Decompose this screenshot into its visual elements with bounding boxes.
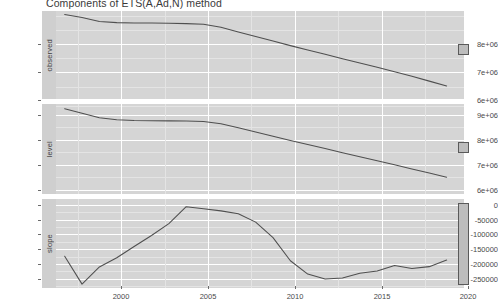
ytickmark	[38, 279, 41, 280]
ytick-level-6e06: 6e+06	[458, 186, 498, 195]
ytick-observed-7e06: 7e+06	[458, 68, 498, 77]
ytickmark	[38, 205, 41, 206]
series-line-slope	[56, 199, 464, 288]
ytickmark	[38, 220, 41, 221]
ytick-level-7e06: 7e+06	[458, 161, 498, 170]
strip-label-level-text: level	[45, 141, 54, 157]
ytick-slope-250000: -250000	[458, 275, 498, 284]
ytick-slope-0: 0	[458, 201, 498, 210]
ytickmark	[38, 72, 41, 73]
xtickmark	[382, 286, 383, 289]
xtick-2015: 2015	[374, 292, 391, 301]
xtick-2000: 2000	[113, 292, 130, 301]
ytickmark	[38, 165, 41, 166]
xtick-2010: 2010	[287, 292, 304, 301]
ytick-observed-8e06: 8e+06	[458, 40, 498, 49]
xtick-2020: 2020	[460, 292, 477, 301]
panel-observed	[56, 11, 464, 99]
ytick-slope-50000: -50000	[458, 216, 498, 225]
ytickmark	[38, 140, 41, 141]
ytick-slope-150000: -150000	[458, 245, 498, 254]
ytick-observed-6e06: 6e+06	[458, 96, 498, 105]
ytick-slope-200000: -200000	[458, 260, 498, 269]
x-axis: 2000 2005 2010 2015 2020	[56, 288, 464, 302]
xtickmark	[208, 286, 209, 289]
panel-slope	[56, 199, 464, 288]
strip-label-observed: observed	[42, 11, 56, 99]
ytickmark	[38, 44, 41, 45]
panel-observed-plotarea	[56, 11, 464, 99]
xtickmark	[121, 286, 122, 289]
ytickmark	[38, 234, 41, 235]
xtickmark	[295, 286, 296, 289]
strip-label-slope-text: slope	[45, 234, 54, 253]
panel-level	[56, 104, 464, 194]
panel-level-plotarea	[56, 104, 464, 194]
ytick-slope-100000: -100000	[458, 230, 498, 239]
xtick-2005: 2005	[200, 292, 217, 301]
xtickmark	[468, 286, 469, 289]
strip-label-level: level	[42, 104, 56, 194]
ytickmark	[38, 100, 41, 101]
ytickmark	[38, 115, 41, 116]
ytick-level-9e06: 9e+06	[458, 111, 498, 120]
chart-title: Components of ETS(A,Ad,N) method	[46, 0, 222, 9]
ytickmark	[38, 190, 41, 191]
ytick-level-8e06: 8e+06	[458, 136, 498, 145]
series-line-observed	[56, 11, 464, 99]
ytickmark	[38, 249, 41, 250]
ets-decomposition-chart: Components of ETS(A,Ad,N) method observe…	[0, 0, 498, 302]
strip-label-observed-text: observed	[45, 39, 54, 71]
strip-label-slope: slope	[42, 199, 56, 288]
series-line-level	[56, 104, 464, 194]
panel-slope-plotarea	[56, 199, 464, 288]
ytickmark	[38, 264, 41, 265]
